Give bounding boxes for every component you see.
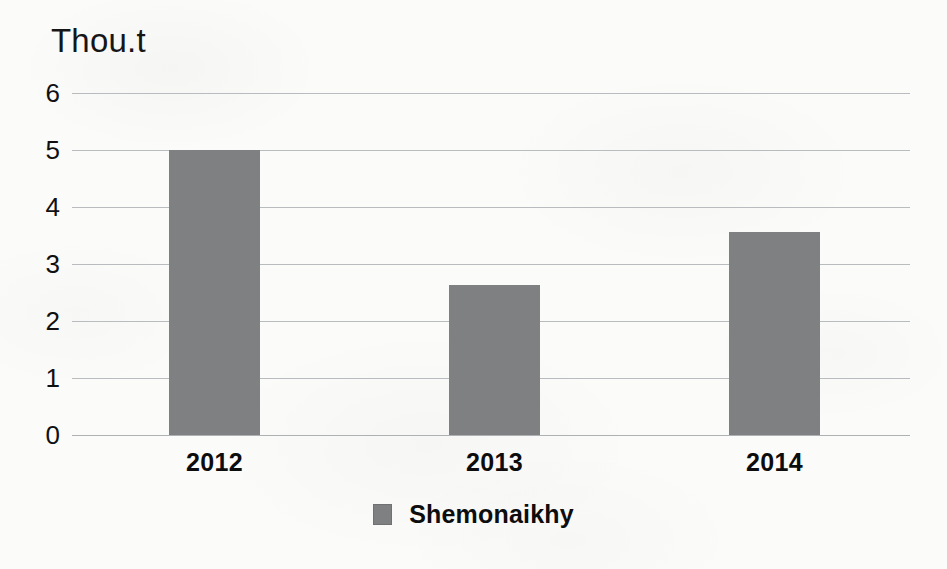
y-axis-tick-label: 3 <box>20 251 60 277</box>
legend-swatch-shemonaikhy <box>373 504 392 525</box>
y-axis-tick-labels: 0123456 <box>16 93 60 435</box>
y-axis-tick-label: 5 <box>20 137 60 163</box>
legend-entry: Shemonaikhy <box>373 500 574 528</box>
y-axis-tick-label: 0 <box>20 422 60 448</box>
y-axis-tick-label: 4 <box>20 194 60 220</box>
gridline <box>72 435 910 436</box>
chart-legend: Shemonaikhy <box>0 500 947 528</box>
y-axis-tick-label: 2 <box>20 308 60 334</box>
legend-label: Shemonaikhy <box>409 500 574 528</box>
bar-chart: Thou.t 0123456 201220132014 Shemonaikhy <box>0 0 947 569</box>
bar-2013 <box>449 285 540 435</box>
bar-2014 <box>729 232 820 435</box>
bar-2012 <box>169 150 260 435</box>
x-axis-tick-labels: 201220132014 <box>72 447 910 481</box>
x-axis-tick-label-2014: 2014 <box>699 447 850 477</box>
gridline <box>72 93 910 94</box>
y-axis-unit-title: Thou.t <box>51 22 146 60</box>
plot-area <box>72 93 910 435</box>
x-axis-tick-label-2013: 2013 <box>419 447 570 477</box>
y-axis-tick-label: 6 <box>20 80 60 106</box>
y-axis-tick-label: 1 <box>20 365 60 391</box>
x-axis-tick-label-2012: 2012 <box>139 447 290 477</box>
